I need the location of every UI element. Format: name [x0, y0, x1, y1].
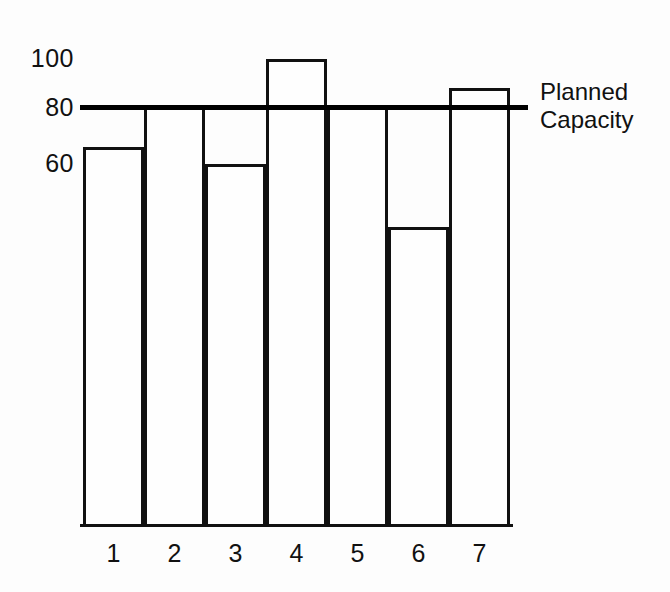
x-tick-4: 4 — [266, 538, 327, 568]
plot-area — [83, 0, 510, 592]
y-tick-60: 60 — [45, 151, 74, 176]
x-tick-6: 6 — [388, 538, 449, 568]
bar-7 — [449, 88, 510, 525]
x-axis-labels: 1 2 3 4 5 6 7 — [83, 538, 510, 578]
x-tick-3: 3 — [205, 538, 266, 568]
planned-capacity-label-line1: Planned — [540, 78, 633, 106]
x-tick-1: 1 — [83, 538, 144, 568]
x-tick-7: 7 — [449, 538, 510, 568]
planned-capacity-label-line2: Capacity — [540, 106, 633, 134]
planned-capacity-line — [80, 105, 528, 110]
y-axis-labels: 100 80 60 — [0, 0, 74, 592]
x-axis-line — [80, 524, 513, 527]
bar-chart: 100 80 60 Planned Capacity 1 2 3 4 5 6 7 — [0, 0, 670, 592]
y-tick-100: 100 — [31, 46, 74, 71]
planned-capacity-label: Planned Capacity — [540, 78, 633, 134]
bar-4 — [266, 59, 327, 525]
bar-2 — [144, 107, 205, 525]
y-tick-80: 80 — [45, 95, 74, 120]
bar-5 — [327, 107, 388, 525]
bar-1 — [83, 147, 144, 525]
bar-6 — [388, 227, 449, 525]
bar-3 — [205, 164, 266, 525]
x-tick-2: 2 — [144, 538, 205, 568]
x-tick-5: 5 — [327, 538, 388, 568]
